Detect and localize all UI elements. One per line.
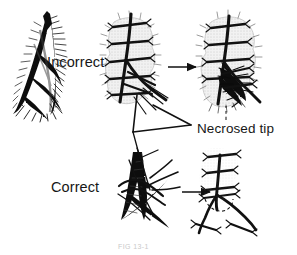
figure-caption: FIG 13-1 [118, 243, 149, 250]
panel-incorrect-suture [100, 11, 168, 114]
figure-root: Incorrect Correct Necrosed tip FIG 13-1 [0, 0, 297, 255]
label-necrosed-tip: Necrosed tip [197, 122, 274, 136]
panel-incorrect-result [196, 10, 262, 113]
pointer-corner-stitch [133, 95, 191, 158]
label-incorrect: Incorrect [47, 55, 104, 70]
label-correct: Correct [51, 180, 99, 195]
panel-correct-suture [118, 148, 180, 228]
